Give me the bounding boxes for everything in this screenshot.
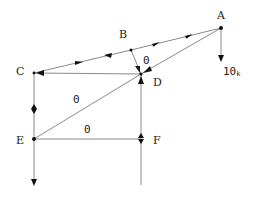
arrow-ce-down-icon — [31, 109, 37, 114]
zero-label-ef: 0 — [84, 123, 91, 136]
load-label: 10k — [223, 65, 241, 78]
member-bc — [34, 50, 131, 73]
load-unit: k — [236, 70, 241, 78]
member-cd — [34, 73, 141, 74]
joint-c — [33, 72, 36, 75]
joint-e — [32, 137, 36, 141]
joint-label-e: E — [16, 134, 24, 147]
arrow-df-near-d-icon — [138, 76, 144, 84]
joint-label-b: B — [119, 28, 127, 41]
truss-members — [34, 28, 221, 185]
arrow-ad-near-d-icon — [143, 66, 152, 73]
joint-label-c: C — [16, 65, 24, 78]
joint-label-a: A — [216, 9, 226, 22]
joint-label-d: D — [153, 76, 162, 89]
arrow-df-near-f-up-icon — [138, 133, 144, 138]
zero-label-bd: 0 — [143, 54, 150, 67]
arrow-cd-near-c-icon — [36, 70, 44, 76]
arrow-df-near-f-down-icon — [138, 139, 144, 144]
arrow-load-icon — [218, 55, 224, 62]
force-arrows — [31, 34, 224, 186]
joint-b — [129, 48, 132, 51]
joint-d — [139, 72, 142, 75]
truss-diagram: A B C D E F 0 0 0 10k — [0, 0, 253, 218]
arrow-bc-near-b-icon — [104, 53, 112, 58]
member-ad — [141, 28, 221, 74]
arrow-ce-up-icon — [31, 104, 37, 109]
arrow-e-reaction-icon — [31, 179, 37, 186]
arrow-bd-near-d-icon — [135, 66, 140, 73]
joint-labels: A B C D E F — [16, 9, 226, 147]
joint-a — [219, 26, 223, 30]
zero-label-ed: 0 — [73, 93, 80, 106]
joint-label-f: F — [153, 134, 161, 147]
member-ab — [131, 28, 221, 50]
load-value: 10 — [223, 65, 236, 78]
